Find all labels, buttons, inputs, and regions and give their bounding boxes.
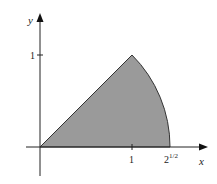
y-tick-label-1: 1 <box>30 50 35 61</box>
region-diagram: y 1 1 21/2 x <box>0 0 217 184</box>
shaded-region <box>40 55 170 147</box>
x-tick-label-sqrt2: 21/2 <box>164 152 178 165</box>
y-axis-arrow-icon <box>37 13 44 22</box>
y-axis-label: y <box>27 14 33 26</box>
x-axis-label: x <box>198 155 204 167</box>
x-tick-label-1: 1 <box>129 154 134 165</box>
x-axis-arrow-icon <box>199 144 208 151</box>
